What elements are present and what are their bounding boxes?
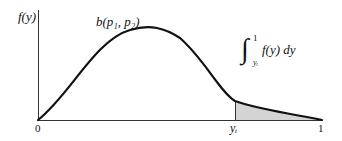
integral-sign: ∫ (241, 34, 249, 64)
integral-upper-limit: 1 (253, 33, 258, 43)
integral-integrand: f(y) dy (262, 42, 296, 58)
beta-distribution-diagram: f(y) b(p₁, p₂) ∫ 1 yᵢ f(y) dy 0 yᵢ 1 (0, 0, 342, 141)
x-tick-origin: 0 (35, 122, 41, 134)
x-tick-end: 1 (318, 122, 324, 134)
x-tick-yi: yᵢ (230, 121, 237, 136)
curve-label: b(p₁, p₂) (96, 14, 140, 30)
diagram-canvas (0, 0, 342, 141)
y-axis-label: f(y) (18, 9, 36, 25)
integral-lower-limit: yᵢ (253, 58, 258, 67)
